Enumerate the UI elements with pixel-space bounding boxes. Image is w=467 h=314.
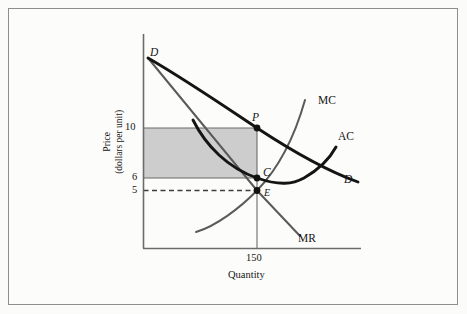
x-tick-150: 150 (246, 253, 262, 264)
label-point-c: C (263, 167, 271, 179)
point-p-marker (254, 125, 261, 132)
label-demand-end: D (344, 174, 352, 186)
label-point-e: E (264, 188, 270, 198)
label-demand-top: D (150, 47, 158, 59)
point-e-marker (254, 187, 261, 194)
label-marginal-revenue: MR (298, 233, 316, 245)
x-axis-title: Quantity (228, 270, 265, 281)
y-axis-title: Price (dollars per unit) (84, 104, 144, 190)
figure-page: 10 6 5 150 Quantity Price (dollars per u… (0, 0, 467, 314)
label-marginal-cost: MC (318, 95, 336, 107)
label-average-cost: AC (338, 131, 354, 143)
monopoly-graph (0, 0, 467, 314)
label-point-p: P (252, 112, 259, 124)
y-axis-title-line2: (dollars per unit) (114, 99, 126, 185)
y-axis-title-line1: Price (102, 132, 112, 152)
point-c-marker (254, 175, 261, 182)
